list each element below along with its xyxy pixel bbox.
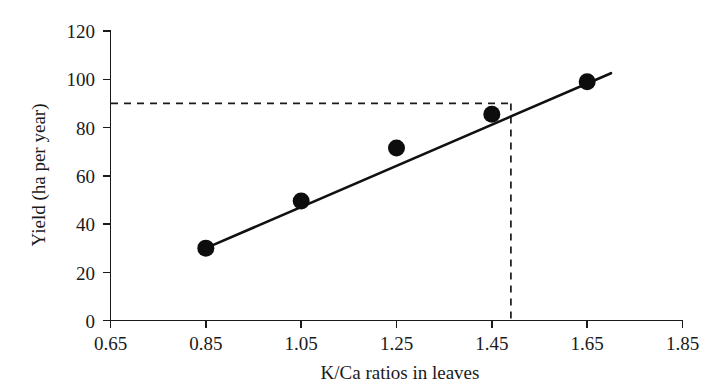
y-tick-label-0: 0 xyxy=(86,311,96,332)
x-axis-title: K/Ca ratios in leaves xyxy=(321,362,480,383)
x-tick-label-0-85: 0.85 xyxy=(189,333,222,354)
chart-figure: 120 100 80 60 40 20 0 0.65 0.85 1.05 1.2… xyxy=(0,0,727,392)
data-point xyxy=(388,140,405,157)
y-tick-label-80: 80 xyxy=(76,118,95,139)
x-tick-label-1-25: 1.25 xyxy=(380,333,413,354)
y-tick-label-20: 20 xyxy=(76,263,95,284)
data-point xyxy=(293,193,310,210)
trend-line xyxy=(206,73,611,248)
y-tick-label-120: 120 xyxy=(67,21,96,42)
y-tick-label-60: 60 xyxy=(76,166,95,187)
data-point xyxy=(579,73,596,90)
x-tick-label-1-05: 1.05 xyxy=(285,333,318,354)
y-axis-ticks xyxy=(103,31,110,321)
data-point xyxy=(483,106,500,123)
y-axis-title: Yield (ha per year) xyxy=(28,104,50,247)
x-tick-label-1-85: 1.85 xyxy=(666,333,699,354)
y-tick-label-100: 100 xyxy=(67,69,96,90)
x-tick-label-1-45: 1.45 xyxy=(475,333,508,354)
scatter-plot-canvas: 120 100 80 60 40 20 0 0.65 0.85 1.05 1.2… xyxy=(0,0,727,392)
data-point xyxy=(197,240,214,257)
y-tick-label-40: 40 xyxy=(76,214,95,235)
x-tick-label-0-65: 0.65 xyxy=(94,333,127,354)
x-tick-label-1-65: 1.65 xyxy=(571,333,604,354)
